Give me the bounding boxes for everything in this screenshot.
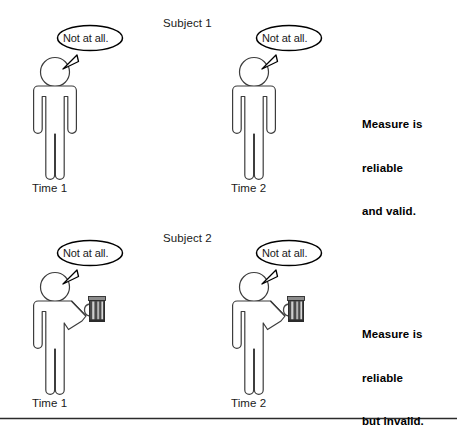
subject-2-time-label-2: Time 2 — [231, 397, 266, 409]
subject-2-figure-time-2 — [233, 273, 285, 395]
subject-1-verdict-line-3: and valid. — [362, 204, 422, 219]
subject-2-time-label-1: Time 1 — [32, 397, 67, 409]
subject-1-figure-time-1 — [34, 58, 77, 180]
subject-1-title: Subject 1 — [163, 17, 212, 29]
subject-2-bubble-text-time-1: Not at all. — [63, 247, 108, 259]
subject-2-bubble-text-time-2: Not at all. — [262, 247, 307, 259]
subject-2-verdict-line-2: reliable — [362, 371, 424, 386]
subject-1-figure-time-2 — [233, 58, 276, 180]
subject-2-mug-time-2 — [284, 297, 305, 322]
subject-1-bubble-text-time-2: Not at all. — [262, 32, 307, 44]
subject-1-verdict-line-2: reliable — [362, 161, 422, 176]
subject-2-verdict-line-3: but invalid. — [362, 414, 424, 426]
subject-1-bubble-text-time-1: Not at all. — [63, 32, 108, 44]
subject-1-time-label-1: Time 1 — [32, 182, 67, 194]
subject-1-verdict-line-1: Measure is — [362, 117, 422, 132]
subject-2-mug-time-1 — [85, 297, 106, 322]
subject-2-figure-time-1 — [34, 273, 86, 395]
subject-1-time-label-2: Time 2 — [231, 182, 266, 194]
subject-2-verdict: Measure is reliable but invalid. — [362, 298, 424, 426]
subject-2-verdict-line-1: Measure is — [362, 327, 424, 342]
subject-1-verdict: Measure is reliable and valid. — [362, 88, 422, 233]
subject-2-title: Subject 2 — [163, 232, 212, 244]
